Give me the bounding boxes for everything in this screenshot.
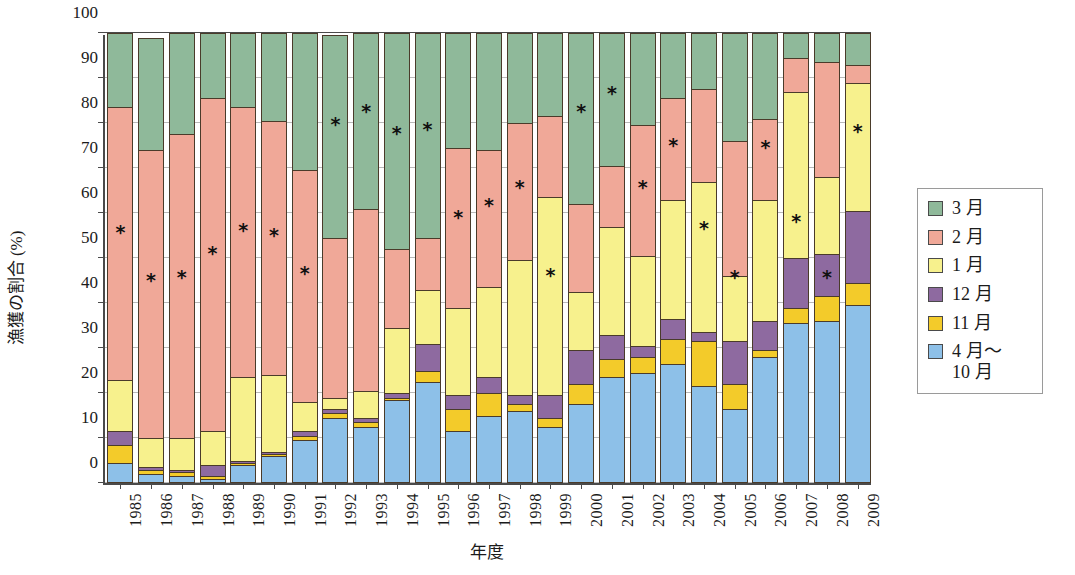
legend-item[interactable]: 2 月 (928, 227, 1034, 248)
bar-segment (322, 409, 348, 414)
bar-segment (169, 33, 195, 134)
bar-1997[interactable] (476, 35, 502, 483)
bar-segment (384, 33, 410, 249)
bar-1993[interactable] (353, 35, 379, 483)
bar-segment (230, 377, 256, 460)
y-tick-label: 90 (81, 48, 98, 68)
bar-segment (630, 373, 656, 483)
bar-segment (568, 384, 594, 404)
bar-segment (537, 395, 563, 418)
legend-item[interactable]: 11 月 (928, 313, 1034, 334)
bar-2005[interactable] (722, 35, 748, 483)
y-tick-label: 10 (81, 408, 98, 428)
bar-segment (261, 33, 287, 121)
legend-label: 2 月 (952, 227, 984, 248)
legend-label: 3 月 (952, 198, 984, 219)
bar-segment (230, 465, 256, 483)
bar-segment (783, 323, 809, 483)
bar-segment (107, 463, 133, 483)
x-tick-mark (458, 483, 459, 489)
legend-item[interactable]: 4 月〜 10 月 (928, 341, 1034, 382)
bar-2000[interactable] (568, 35, 594, 483)
bar-segment (568, 350, 594, 384)
bar-1989[interactable] (230, 35, 256, 483)
bar-1985[interactable] (107, 35, 133, 483)
bar-segment (845, 65, 871, 83)
bar-segment (107, 107, 133, 379)
bar-segment (200, 431, 226, 465)
x-tick-label: 1987 (189, 493, 207, 527)
y-tick-mark-10 (98, 437, 105, 438)
legend-item[interactable]: 1 月 (928, 255, 1034, 276)
bar-segment (814, 321, 840, 483)
y-tick-label: 80 (81, 93, 98, 113)
bar-1987[interactable] (169, 35, 195, 483)
bar-1992[interactable] (322, 35, 348, 483)
x-tick-label: 2004 (711, 493, 729, 527)
y-tick-mark-90 (98, 77, 105, 78)
bar-segment (353, 33, 379, 209)
bar-segment (599, 335, 625, 360)
bar-segment (691, 332, 717, 341)
x-tick-mark (796, 483, 797, 489)
bar-segment (384, 398, 410, 400)
x-axis-title: 年度 (103, 538, 871, 563)
x-tick-label: 1995 (435, 493, 453, 527)
bar-1988[interactable] (200, 35, 226, 483)
bar-2002[interactable] (630, 35, 656, 483)
x-tick-mark (581, 483, 582, 489)
bar-segment (169, 470, 195, 472)
legend-item[interactable]: 12 月 (928, 284, 1034, 305)
bar-1990[interactable] (261, 35, 287, 483)
bar-1991[interactable] (292, 35, 318, 483)
bar-1998[interactable] (507, 35, 533, 483)
bar-segment (783, 58, 809, 92)
x-tick-label: 1986 (158, 493, 176, 527)
bar-1994[interactable] (384, 35, 410, 483)
bar-segment (261, 452, 287, 454)
bar-segment (476, 33, 502, 150)
bar-segment (138, 150, 164, 438)
bar-1995[interactable] (415, 35, 441, 483)
bar-2008[interactable] (814, 35, 840, 483)
bar-1996[interactable] (445, 35, 471, 483)
y-tick-mark-100 (98, 32, 105, 33)
y-tick-mark-40 (98, 302, 105, 303)
bar-2009[interactable] (845, 35, 871, 483)
bar-segment (691, 182, 717, 333)
bar-segment (783, 308, 809, 324)
legend-item[interactable]: 3 月 (928, 198, 1034, 219)
bar-segment (722, 384, 748, 409)
bar-2001[interactable] (599, 35, 625, 483)
bar-segment (200, 465, 226, 476)
y-tick-label: 100 (73, 3, 99, 23)
bar-segment (353, 427, 379, 483)
x-tick-label: 2002 (650, 493, 668, 527)
y-tick-label: 40 (81, 273, 98, 293)
bar-2003[interactable] (660, 35, 686, 483)
legend: 3 月2 月1 月12 月11 月4 月〜 10 月 (917, 188, 1043, 394)
bar-segment (845, 33, 871, 65)
bar-1999[interactable] (537, 35, 563, 483)
bar-segment (261, 456, 287, 483)
bar-segment (691, 386, 717, 483)
y-tick-mark-60 (98, 212, 105, 213)
bar-segment (415, 382, 441, 483)
bar-2004[interactable] (691, 35, 717, 483)
y-tick-mark-50 (98, 257, 105, 258)
bar-segment (476, 377, 502, 393)
bar-segment (353, 391, 379, 418)
legend-swatch-icon (928, 258, 943, 273)
bar-segment (752, 200, 778, 322)
bar-segment (353, 422, 379, 427)
bar-2006[interactable] (752, 35, 778, 483)
x-tick-mark (489, 483, 490, 489)
y-tick-label: 20 (81, 363, 98, 383)
bar-2007[interactable] (783, 35, 809, 483)
x-tick-label: 2005 (742, 493, 760, 527)
bar-segment (107, 380, 133, 432)
bar-1986[interactable] (138, 35, 164, 483)
legend-label: 1 月 (952, 255, 984, 276)
bar-segment (384, 249, 410, 328)
x-tick-mark (520, 483, 521, 489)
